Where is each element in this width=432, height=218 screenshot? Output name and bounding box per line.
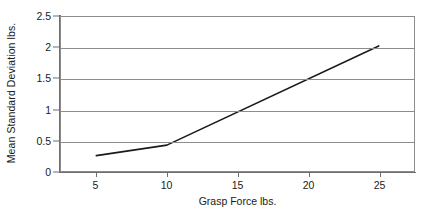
series-line-mean-standard-deviation	[96, 46, 378, 156]
x-axis-title: Grasp Force lbs.	[60, 195, 415, 207]
x-tick-label-20: 20	[303, 179, 315, 191]
x-axis-tick-marks	[60, 172, 415, 178]
y-tick-label-2: 2	[45, 41, 51, 53]
y-tick-label-1: 1	[45, 104, 51, 116]
y-axis-title: Mean Standard Deviation lbs.	[0, 0, 22, 186]
y-tick-label-0: 0	[45, 166, 51, 178]
x-tick-label-25: 25	[374, 179, 386, 191]
x-tick-label-5: 5	[93, 179, 99, 191]
y-tick-label-2.5: 2.5	[36, 10, 51, 22]
x-tick-label-10: 10	[161, 179, 173, 191]
x-tick-mark-25	[380, 172, 381, 177]
gridline-y-0.5	[61, 142, 414, 143]
gridline-y-2	[61, 48, 414, 49]
x-tick-mark-20	[309, 172, 310, 177]
y-axis-title-text: Mean Standard Deviation lbs.	[5, 23, 17, 164]
x-tick-mark-15	[238, 172, 239, 177]
y-tick-label-1.5: 1.5	[36, 72, 51, 84]
y-tick-label-0.5: 0.5	[36, 135, 51, 147]
x-tick-mark-10	[167, 172, 168, 177]
gridline-y-1.5	[61, 79, 414, 80]
chart-container: Mean Standard Deviation lbs. 00.511.522.…	[0, 0, 432, 218]
x-tick-label-15: 15	[232, 179, 244, 191]
y-axis-tick-labels: 00.511.522.5	[22, 16, 55, 172]
x-axis-tick-labels: 510152025	[60, 179, 415, 193]
x-tick-mark-5	[96, 172, 97, 177]
data-series-svg	[61, 17, 414, 171]
gridline-y-1	[61, 111, 414, 112]
plot-area	[60, 16, 415, 172]
